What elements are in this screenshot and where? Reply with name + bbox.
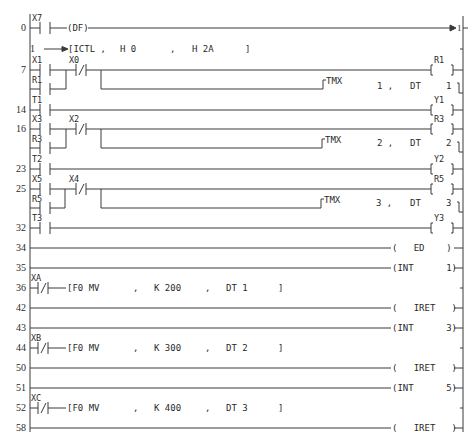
contact-label: XB [31,333,41,343]
mv-instruction: [F0 MV [67,403,100,413]
coil-label: R5 [434,174,444,184]
jump-arrow-icon [450,25,456,31]
coil-label: R3 [434,114,444,124]
int-instruction: (INT 1) [392,263,457,273]
step-number: 7 [0,65,26,75]
step-number: 44 [0,343,26,353]
step-number: 34 [0,243,26,253]
rung-44 [30,342,66,354]
step-number: 23 [0,164,26,174]
timer-dest: DT [410,81,421,91]
jump-label: 1 [457,23,462,33]
rung-36 [30,282,66,294]
rung-23 [30,163,463,175]
step-number: 43 [0,323,26,333]
step-number: 25 [0,184,26,194]
iret-instruction: ( IRET ) [392,423,457,433]
mv-sep: , [133,343,138,353]
rung-52 [30,402,66,414]
step-number: 58 [0,423,26,433]
mv-source: K 200 [154,283,181,293]
step-number: 36 [0,283,26,293]
contact-label: X2 [69,114,79,124]
mv-dest: DT 2 [226,343,248,353]
contact-label: T3 [32,213,42,223]
rung-1 [44,47,68,52]
coil-label: R1 [434,55,444,65]
mv-dest: DT 1 [226,283,248,293]
ed-instruction: ( ED ) [392,243,452,253]
timer-dest: DT [410,138,421,148]
step-number: 14 [0,105,26,115]
mv-sep: , [205,343,210,353]
contact-label: R5 [32,194,42,204]
ictl-sep: , [170,44,175,54]
coil-label: Y2 [434,154,444,164]
mv-close: ] [278,283,283,293]
timer-number: 1 , [377,81,393,91]
rung-7 [30,64,463,95]
rung-25 [30,183,463,214]
contact-label: R1 [32,75,42,85]
step-number: 1 [30,44,35,54]
ictl-arg1: H 0 [120,44,136,54]
step-number: 52 [0,403,26,413]
rung-32 [30,222,463,234]
timer-number: 3 , [376,198,392,208]
mv-sep: , [133,403,138,413]
mv-close: ] [278,343,283,353]
mv-sep: , [205,283,210,293]
ictl-arg2: H 2A [192,44,214,54]
step-number: 0 [0,23,26,33]
contact-label: X0 [69,55,79,65]
contact-label: X7 [32,13,42,23]
int-instruction: (INT 5) [392,383,457,393]
df-instruction: (DF) [67,23,89,33]
timer-dest-no: 1 [446,81,451,91]
mv-source: K 300 [154,343,181,353]
ladder-diagram: 0 1 7 14 16 23 25 32 34 35 36 42 43 44 5… [0,0,474,445]
ladder-wiring [0,0,474,445]
step-number: 16 [0,124,26,134]
timer-dest: DT [410,198,421,208]
mv-source: K 400 [154,403,181,413]
mv-close: ] [278,403,283,413]
mv-sep: , [205,403,210,413]
contact-label: XC [31,393,41,403]
rung-0 [30,22,468,34]
mv-instruction: [F0 MV [67,343,100,353]
timer-dest-no: 3 [446,198,451,208]
step-number: 32 [0,223,26,233]
contact-label: X3 [32,114,42,124]
timer-name: TMX [326,76,342,86]
coil-label: Y1 [434,95,444,105]
iret-instruction: ( IRET ) [392,363,457,373]
ictl-close: ] [245,44,250,54]
mv-sep: , [133,283,138,293]
contact-label: X4 [69,174,79,184]
timer-name: TMX [325,135,341,145]
contact-label: T2 [32,154,42,164]
coil-label: Y3 [434,213,444,223]
contact-label: X5 [32,174,42,184]
timer-number: 2 , [377,138,393,148]
rung-14 [30,104,463,116]
ictl-instruction: [ICTL , [68,44,106,54]
step-number: 51 [0,383,26,393]
timer-dest-no: 2 [446,138,451,148]
rung-16 [30,123,463,154]
contact-label: X1 [32,55,42,65]
step-number: 35 [0,263,26,273]
mv-instruction: [F0 MV [67,283,100,293]
step-number: 42 [0,303,26,313]
int-instruction: (INT 3) [392,323,457,333]
contact-label: XA [31,273,41,283]
step-number: 50 [0,363,26,373]
contact-label: R3 [32,134,42,144]
mv-dest: DT 3 [226,403,248,413]
contact-label: T1 [32,95,42,105]
iret-instruction: ( IRET ) [392,303,457,313]
timer-name: TMX [324,195,340,205]
